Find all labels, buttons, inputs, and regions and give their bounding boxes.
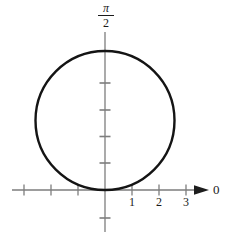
horizontal-axis-arrowhead (194, 185, 209, 195)
vertical-axis-label: π 2 (97, 2, 115, 29)
x-tick-label-1: 1 (129, 196, 135, 208)
pi-symbol: π (97, 2, 115, 14)
horizontal-axis-label: 0 (213, 183, 220, 196)
plot-canvas (0, 0, 229, 243)
x-tick-label-2: 2 (156, 196, 162, 208)
fraction-denominator: 2 (97, 17, 115, 29)
x-tick-label-3: 3 (183, 196, 189, 208)
polar-circle-figure: π 2 0 1 2 3 (0, 0, 229, 243)
